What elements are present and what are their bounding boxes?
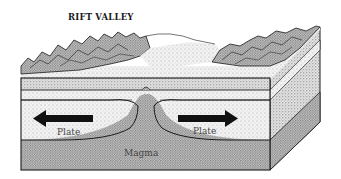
plate-label-left: Plate <box>57 128 80 137</box>
diagram-title: RIFT VALLEY <box>68 13 134 22</box>
mountain-surface <box>21 26 320 80</box>
magma-label: Magma <box>124 149 158 158</box>
plate-label-right: Plate <box>193 127 216 136</box>
rift-valley-diagram: RIFT VALLEY Plate Plate Magma <box>0 0 341 179</box>
block-diagram-illustration <box>0 0 341 179</box>
